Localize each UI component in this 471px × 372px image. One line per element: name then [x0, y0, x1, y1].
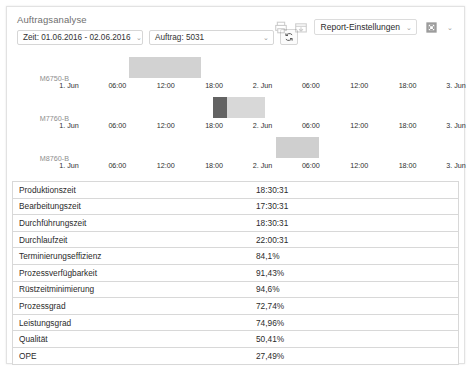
metric-value: 91,43%: [256, 268, 458, 278]
metric-name: Prozessgrad: [13, 301, 256, 311]
axis-tick-label: 18:00: [399, 121, 417, 130]
metric-value: 18:30:31: [256, 185, 458, 195]
metrics-table: Produktionszeit18:30:31Bearbeitungszeit1…: [12, 181, 459, 365]
export-icon[interactable]: [294, 21, 308, 34]
order-select[interactable]: Auftrag: 5031 ⌄: [149, 30, 274, 45]
fullscreen-control[interactable]: ⌄: [423, 19, 456, 35]
axis-tick-label: 18:00: [205, 81, 223, 90]
axis-tick-label: 3. Jun: [446, 161, 466, 170]
axis-tick-label: 12:00: [350, 161, 368, 170]
chevron-down-icon: ⌄: [447, 24, 453, 31]
metric-value: 27,49%: [256, 351, 458, 361]
metric-value: 94,6%: [256, 284, 458, 294]
axis-tick-label: 2. Jun: [253, 81, 273, 90]
axis-tick-label: 2. Jun: [253, 121, 273, 130]
table-row: Rüstzeitminimierung94,6%: [13, 282, 458, 299]
gantt-chart: M6750-B1. Jun06:0012:0018:002. Jun06:001…: [7, 54, 464, 174]
axis-tick-label: 06:00: [108, 161, 126, 170]
order-label: Auftrag: 5031: [155, 33, 204, 42]
gantt-time-axis: 1. Jun06:0012:0018:002. Jun06:0012:0018:…: [69, 81, 456, 93]
table-row: Durchlaufzeit22:00:31: [13, 232, 458, 249]
axis-tick-label: 18:00: [399, 161, 417, 170]
date-range-label: Zeit: 01.06.2016 - 02.06.2016: [23, 33, 130, 42]
gantt-row-track: 1. Jun06:0012:0018:002. Jun06:0012:0018:…: [69, 54, 456, 94]
axis-tick-label: 18:00: [205, 121, 223, 130]
filter-bar: Zeit: 01.06.2016 - 02.06.2016 ⌄ Auftrag:…: [17, 29, 298, 45]
metric-name: Durchführungszeit: [13, 218, 256, 228]
axis-tick-label: 3. Jun: [446, 121, 466, 130]
axis-tick-label: 06:00: [108, 81, 126, 90]
gantt-time-axis: 1. Jun06:0012:0018:002. Jun06:0012:0018:…: [69, 121, 456, 133]
table-row: Qualität50,41%: [13, 331, 458, 348]
axis-tick-label: 06:00: [108, 121, 126, 130]
fullscreen-icon[interactable]: [426, 22, 437, 33]
metric-name: Terminierungseffizienz: [13, 251, 256, 261]
table-row: Terminierungseffizienz84,1%: [13, 248, 458, 265]
metric-name: Produktionszeit: [13, 185, 256, 195]
metric-name: Prozessverfügbarkeit: [13, 268, 256, 278]
metric-name: Rüstzeitminimierung: [13, 284, 256, 294]
panel-header: Auftragsanalyse Zeit: 01.06.2016 - 02.06…: [7, 7, 464, 52]
gantt-row-track: 1. Jun06:0012:0018:002. Jun06:0012:0018:…: [69, 94, 456, 134]
axis-tick-label: 06:00: [302, 161, 320, 170]
table-row: OPE27,49%: [13, 348, 458, 365]
gantt-row: M7760-B1. Jun06:0012:0018:002. Jun06:001…: [7, 94, 464, 134]
metric-name: OPE: [13, 351, 256, 361]
chevron-down-icon: ⌄: [136, 34, 142, 41]
gantt-bar[interactable]: [276, 137, 319, 158]
date-range-select[interactable]: Zeit: 01.06.2016 - 02.06.2016 ⌄: [17, 30, 143, 45]
metric-value: 72,74%: [256, 301, 458, 311]
metric-name: Leistungsgrad: [13, 318, 256, 328]
gantt-bar[interactable]: [129, 57, 201, 78]
table-row: Bearbeitungszeit17:30:31: [13, 199, 458, 216]
gantt-row-track: 1. Jun06:0012:0018:002. Jun06:0012:0018:…: [69, 134, 456, 174]
gantt-row: M6750-B1. Jun06:0012:0018:002. Jun06:001…: [7, 54, 464, 94]
report-settings-select[interactable]: Report-Einstellungen ⌄: [314, 19, 417, 35]
axis-tick-label: 12:00: [350, 121, 368, 130]
axis-tick-label: 18:00: [205, 161, 223, 170]
axis-tick-label: 06:00: [302, 81, 320, 90]
metric-name: Qualität: [13, 334, 256, 344]
axis-tick-label: 12:00: [157, 121, 175, 130]
axis-tick-label: 1. Jun: [59, 81, 79, 90]
table-row: Prozessgrad72,74%: [13, 298, 458, 315]
gantt-time-axis: 1. Jun06:0012:0018:002. Jun06:0012:0018:…: [69, 161, 456, 173]
metric-value: 74,96%: [256, 318, 458, 328]
metric-value: 17:30:31: [256, 201, 458, 211]
chevron-down-icon: ⌄: [406, 24, 412, 31]
metric-name: Bearbeitungszeit: [13, 201, 256, 211]
metric-value: 22:00:31: [256, 235, 458, 245]
table-row: Prozessverfügbarkeit91,43%: [13, 265, 458, 282]
axis-tick-label: 2. Jun: [253, 161, 273, 170]
axis-tick-label: 12:00: [157, 81, 175, 90]
toolbar: Report-Einstellungen ⌄ ⌄: [274, 19, 456, 35]
axis-tick-label: 12:00: [350, 81, 368, 90]
gantt-bar[interactable]: [227, 97, 265, 118]
axis-tick-label: 12:00: [157, 161, 175, 170]
table-row: Produktionszeit18:30:31: [13, 182, 458, 199]
chevron-down-icon: ⌄: [263, 34, 269, 41]
report-settings-label: Report-Einstellungen: [321, 22, 400, 32]
table-row: Leistungsgrad74,96%: [13, 315, 458, 332]
auftragsanalyse-panel: Auftragsanalyse Zeit: 01.06.2016 - 02.06…: [6, 6, 465, 364]
axis-tick-label: 3. Jun: [446, 81, 466, 90]
metric-value: 18:30:31: [256, 218, 458, 228]
page-title: Auftragsanalyse: [17, 14, 87, 25]
metric-value: 50,41%: [256, 334, 458, 344]
axis-tick-label: 06:00: [302, 121, 320, 130]
print-icon[interactable]: [274, 21, 288, 34]
axis-tick-label: 1. Jun: [59, 161, 79, 170]
gantt-row: M8760-B1. Jun06:0012:0018:002. Jun06:001…: [7, 134, 464, 174]
metric-value: 84,1%: [256, 251, 458, 261]
axis-tick-label: 1. Jun: [59, 121, 79, 130]
metric-name: Durchlaufzeit: [13, 235, 256, 245]
table-row: Durchführungszeit18:30:31: [13, 215, 458, 232]
axis-tick-label: 18:00: [399, 81, 417, 90]
gantt-bar[interactable]: [213, 97, 227, 118]
